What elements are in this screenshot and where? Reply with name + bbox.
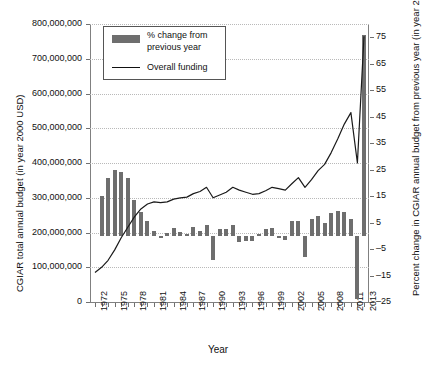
legend-swatch-bar [112,35,140,43]
tick-label-right: 45 [376,111,386,121]
tick-mark-right [370,276,374,277]
tick-mark-left [86,302,90,303]
chart-figure: CGIAR total annual budget (in year 2000 … [0,0,436,368]
tick-label-left: 300,000,000 [2,192,82,202]
tick-mark-bottom [193,303,194,307]
tick-label-right: –5 [376,243,386,253]
tick-label-right: –15 [376,270,391,280]
tick-mark-bottom [252,303,253,307]
x-axis-title: Year [0,344,436,355]
tick-mark-bottom [233,303,234,307]
tick-mark-bottom [312,303,313,307]
tick-mark-bottom [292,303,293,307]
tick-mark-bottom [115,303,116,307]
tick-label-right: 55 [376,84,386,94]
legend-label-bar-line2: previous year [147,42,201,52]
axis-spine-bottom [90,302,370,303]
tick-label-bottom: 2013 [368,291,378,311]
tick-label-right: 75 [376,31,386,41]
tick-label-left: 0 [2,296,82,306]
tick-mark-right [370,249,374,250]
legend-label-line: Overall funding [147,62,208,72]
tick-mark-bottom [213,303,214,307]
tick-label-left: 400,000,000 [2,157,82,167]
tick-mark-right [370,117,374,118]
tick-mark-bottom [331,303,332,307]
tick-mark-right [370,196,374,197]
tick-mark-right [370,143,374,144]
tick-label-left: 500,000,000 [2,122,82,132]
tick-label-right: –25 [376,296,391,306]
tick-mark-bottom [134,303,135,307]
tick-mark-bottom [154,303,155,307]
y-axis-title-right-text: Percent change in CGIAR annual budget fr… [410,0,421,296]
tick-mark-right [370,64,374,65]
tick-mark-right [370,223,374,224]
tick-mark-bottom [95,303,96,307]
tick-mark-bottom [351,303,352,307]
tick-mark-right [370,90,374,91]
tick-label-left: 100,000,000 [2,261,82,271]
tick-label-left: 200,000,000 [2,227,82,237]
tick-label-left: 600,000,000 [2,88,82,98]
tick-label-left: 800,000,000 [2,18,82,28]
legend-label-bar-line1: % change from [147,30,208,40]
tick-label-right: 65 [376,58,386,68]
tick-mark-bottom [272,303,273,307]
tick-mark-right [370,37,374,38]
tick-mark-bottom [174,303,175,307]
tick-label-right: 5 [376,217,381,227]
chart-legend: % change from previous year Overall fund… [103,26,226,80]
tick-label-right: 15 [376,190,386,200]
y-axis-title-right: Percent change in CGIAR annual budget fr… [410,0,421,296]
legend-swatch-line [112,67,140,68]
tick-mark-right [370,170,374,171]
tick-label-right: 35 [376,137,386,147]
tick-label-left: 700,000,000 [2,53,82,63]
tick-label-right: 25 [376,164,386,174]
